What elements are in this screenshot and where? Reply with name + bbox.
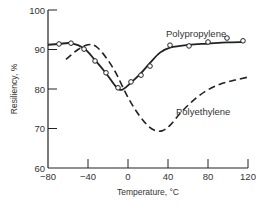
polypropylene-marker-circle-icon [82, 47, 87, 52]
polypropylene-marker-circle-icon [116, 86, 121, 91]
polypropylene-marker-circle-icon [206, 40, 211, 45]
polypropylene-marker-circle-icon [104, 71, 109, 76]
x-tick-label: 120 [240, 171, 256, 182]
polypropylene-marker-circle-icon [57, 42, 62, 47]
x-axis-title: Temperature, °C [117, 187, 179, 197]
x-tick-label: 0 [125, 171, 130, 182]
polypropylene-marker-circle-icon [148, 64, 153, 69]
x-ticks: −80−4004080120 [40, 159, 256, 182]
polypropylene-marker-circle-icon [187, 44, 192, 49]
polypropylene-marker-circle-icon [168, 43, 173, 48]
polypropylene-marker-circle-icon [129, 80, 134, 85]
x-tick-label: −40 [80, 171, 96, 182]
y-axis-title: Resiliency, % [9, 63, 19, 114]
polypropylene-marker-circle-icon [93, 59, 98, 64]
x-tick-label: −80 [40, 171, 56, 182]
x-tick-label: 80 [203, 171, 214, 182]
resiliency-vs-temperature-chart: 60708090100 −80−4004080120 Resiliency, %… [0, 0, 268, 211]
y-tick-label: 80 [34, 84, 45, 95]
polypropylene-marker-circle-icon [241, 39, 246, 44]
polypropylene-marker-circle-icon [69, 41, 74, 46]
x-tick-label: 40 [163, 171, 174, 182]
series-layer: PolypropylenePolyethylene [48, 28, 248, 131]
y-ticks: 60708090100 [29, 5, 57, 174]
y-tick-label: 100 [29, 5, 45, 16]
series-polypropylene: Polypropylene [48, 28, 245, 90]
polypropylene-label: Polypropylene [166, 28, 226, 39]
polyethylene-label: Polyethylene [176, 106, 230, 117]
y-tick-label: 90 [34, 44, 45, 55]
y-tick-label: 70 [34, 123, 45, 134]
polypropylene-marker-circle-icon [139, 73, 144, 78]
